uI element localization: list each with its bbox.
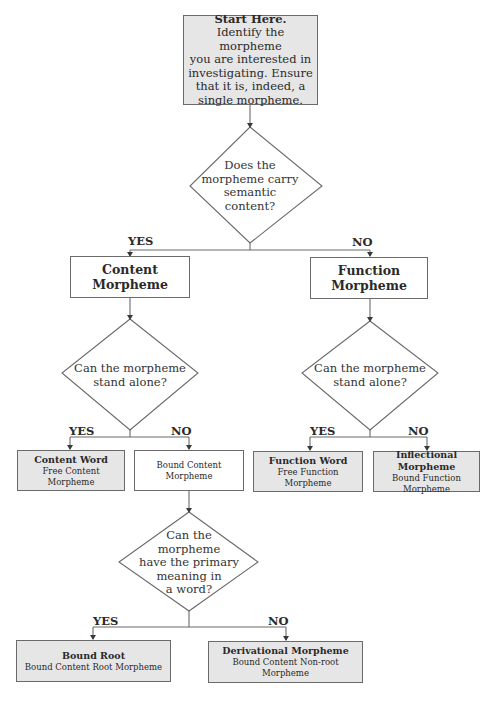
q2-function-yes-label: YES: [310, 424, 335, 438]
content-morpheme-box: Content Morpheme: [70, 256, 190, 298]
bound-content-morpheme-label: Bound Content Morpheme: [135, 460, 243, 482]
question-line: stand alone?: [312, 376, 428, 390]
question-line: morpheme: [139, 543, 239, 557]
question-line: content?: [200, 200, 300, 214]
start-line: you are interested in: [190, 53, 312, 67]
start-title: Start Here.: [214, 13, 286, 27]
bound-root-subtitle: Bound Content Root Morpheme: [25, 662, 162, 673]
bound-root-title: Bound Root: [62, 650, 125, 662]
start-line: investigating. Ensure: [188, 67, 313, 81]
question-function-stand-alone: Can the morpheme stand alone?: [312, 362, 428, 389]
question-content-stand-alone: Can the morpheme stand alone?: [72, 362, 188, 389]
question-line: Can the: [139, 529, 239, 543]
content-word-subtitle: Free Content Morpheme: [18, 466, 124, 488]
q2-function-no-label: NO: [408, 424, 429, 438]
inflectional-morpheme-subtitle: Bound Function Morpheme: [374, 473, 479, 495]
bound-root-box: Bound Root Bound Content Root Morpheme: [16, 640, 171, 682]
question-line: stand alone?: [72, 376, 188, 390]
question-line: Does the: [200, 159, 300, 173]
question-line: have the primary: [139, 556, 239, 570]
question-line: a word?: [139, 583, 239, 597]
question-semantic-content: Does the morpheme carry semantic content…: [200, 159, 300, 213]
start-line: Identify the morpheme: [184, 26, 317, 53]
content-morpheme-title: Content Morpheme: [71, 262, 189, 292]
q2-content-yes-label: YES: [69, 424, 94, 438]
inflectional-morpheme-box: Inflectional Morpheme Bound Function Mor…: [373, 451, 480, 492]
content-word-box: Content Word Free Content Morpheme: [17, 450, 125, 491]
function-morpheme-title: Function Morpheme: [311, 263, 427, 293]
function-morpheme-box: Function Morpheme: [310, 257, 428, 299]
function-word-box: Function Word Free Function Morpheme: [253, 451, 363, 492]
q3-no-label: NO: [268, 614, 289, 628]
derivational-morpheme-subtitle: Bound Content Non-root Morpheme: [209, 657, 362, 679]
question-line: semantic: [200, 186, 300, 200]
q1-yes-label: YES: [128, 234, 153, 248]
content-word-title: Content Word: [34, 454, 108, 466]
inflectional-morpheme-title: Inflectional Morpheme: [374, 449, 479, 473]
function-word-title: Function Word: [269, 455, 348, 467]
question-primary-meaning: Can the morpheme have the primary meanin…: [139, 529, 239, 597]
derivational-morpheme-title: Derivational Morpheme: [222, 645, 348, 657]
question-line: Can the morpheme: [72, 362, 188, 376]
question-line: morpheme carry: [200, 173, 300, 187]
function-word-subtitle: Free Function Morpheme: [254, 467, 362, 489]
start-box: Start Here. Identify the morpheme you ar…: [183, 15, 318, 105]
question-line: Can the morpheme: [312, 362, 428, 376]
q1-no-label: NO: [352, 235, 373, 249]
derivational-morpheme-box: Derivational Morpheme Bound Content Non-…: [208, 641, 363, 683]
q2-content-no-label: NO: [171, 424, 192, 438]
bound-content-morpheme-box: Bound Content Morpheme: [134, 450, 244, 491]
start-line: single morpheme.: [198, 94, 303, 108]
q3-yes-label: YES: [93, 614, 118, 628]
question-line: meaning in: [139, 570, 239, 584]
start-line: that it is, indeed, a: [196, 80, 306, 94]
